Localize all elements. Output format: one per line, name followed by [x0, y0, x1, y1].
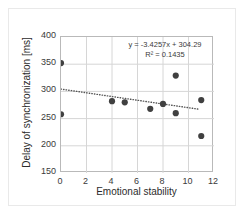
x-tick-label: 0	[50, 176, 70, 186]
data-point	[198, 97, 204, 103]
y-tick-label: 150	[26, 166, 56, 176]
data-point	[173, 73, 179, 79]
data-point	[160, 101, 166, 107]
x-tick-label: 4	[101, 176, 121, 186]
regression-equation-text: y = -3.4257x + 304.29	[118, 40, 212, 50]
y-tick-label: 300	[26, 84, 56, 94]
data-point	[109, 98, 115, 104]
x-tick-label: 2	[76, 176, 96, 186]
x-tick-label: 6	[127, 176, 147, 186]
trendline	[61, 89, 199, 109]
y-tick-label: 250	[26, 112, 56, 122]
y-tick-label: 400	[26, 30, 56, 40]
data-point	[61, 111, 64, 117]
data-point	[61, 60, 64, 66]
x-axis-title: Emotional stability	[60, 186, 213, 197]
y-axis-title: Delay of synchronization [ms]	[21, 28, 32, 178]
x-tick-label: 10	[178, 176, 198, 186]
data-point	[198, 133, 204, 139]
x-tick-label: 12	[203, 176, 223, 186]
scatter-chart-figure: Delay of synchronization [ms] 1502002503…	[0, 0, 244, 216]
trendline-equation-annotation: y = -3.4257x + 304.29 R² = 0.1435	[118, 40, 212, 60]
data-point	[173, 110, 179, 116]
y-tick-label: 350	[26, 57, 56, 67]
y-tick-label: 200	[26, 139, 56, 149]
r-squared-text: R² = 0.1435	[118, 50, 212, 60]
data-point	[147, 106, 153, 112]
x-tick-label: 8	[152, 176, 172, 186]
data-point	[122, 99, 128, 105]
